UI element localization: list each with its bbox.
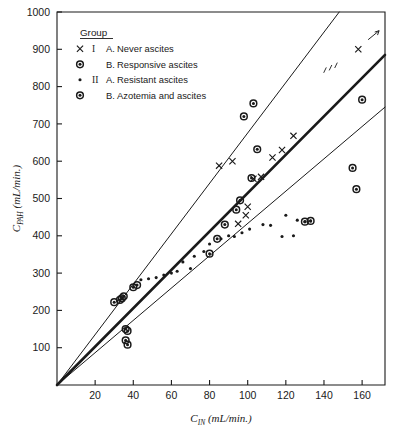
y-tick-label: 100 [32,341,50,353]
legend-item-label: Resistant ascites [117,74,188,85]
arrow-annotation-shaft [368,31,379,40]
legend-item-label: Never ascites [117,43,174,54]
y-tick-label: 800 [32,80,50,92]
small-dot-marker [296,219,299,222]
legend: GroupIA.Never ascitesB.Responsive ascite… [77,27,207,101]
figure-container: 1002003004005006007008009001000204060801… [0,0,404,438]
y-tick-label: 600 [32,155,50,167]
legend-header: Group [80,27,108,38]
circle-dot-center [136,284,139,287]
x-tick-label: 100 [239,389,257,401]
series-group [216,46,361,227]
circle-dot-center [126,329,129,332]
circle-dot-center [256,148,259,151]
small-dot-marker [189,267,192,270]
upper-regression-line [57,12,339,385]
series-group [117,96,366,348]
circle-dot-center [351,166,354,169]
series-group [111,100,261,334]
x-tick-label: 120 [277,389,295,401]
cross-marker [216,163,222,169]
small-dot-marker [162,273,165,276]
y-axis-title: CPAH (mL/min.) [10,164,25,232]
hatch-annotation [324,67,327,72]
y-tick-label: 1000 [27,6,51,18]
plot-annotations [324,31,379,73]
small-dot-marker [261,223,264,226]
circle-dot-center [235,208,238,211]
x-tick-label: 160 [353,389,371,401]
circle-dot-center [355,188,358,191]
cross-marker [229,158,235,164]
lower-regression-line [57,107,385,385]
middle-regression-line [57,55,385,385]
small-dot-marker [176,270,179,273]
cross-marker [355,46,361,52]
legend-item[interactable]: IA.Never ascites [77,43,174,54]
small-dot-marker [139,278,142,281]
small-dot-marker [181,260,184,263]
small-dot-marker [280,235,283,238]
y-tick-label: 900 [32,43,50,55]
circle-dot-center [79,63,82,66]
circle-dot-center [126,343,129,346]
legend-item-label: Responsive ascites [117,59,198,70]
small-dot-marker [147,277,150,280]
legend-item-label: Azotemia and ascites [117,90,206,101]
y-tick-label: 500 [32,192,50,204]
legend-group-roman: II [92,74,98,85]
hatch-annotation [335,63,338,68]
circle-dot-center [208,252,211,255]
small-dot-marker [208,242,211,245]
circle-dot-center [250,176,253,179]
y-tick-label: 700 [32,118,50,130]
legend-item-sub: B. [106,90,115,101]
circle-dot-center [242,115,245,118]
x-tick-label: 140 [315,389,333,401]
legend-item[interactable]: IIA.Resistant ascites [78,74,188,85]
small-dot-marker [78,78,81,81]
cross-marker [269,154,275,160]
y-tick-label: 200 [32,304,50,316]
small-dot-marker [219,237,222,240]
scatter-plot: 1002003004005006007008009001000204060801… [0,0,404,438]
small-dot-marker [233,235,236,238]
cross-marker [243,212,249,218]
circle-dot-center [216,237,219,240]
circle-dot-center [122,295,125,298]
circle-dot-center [79,94,82,97]
cross-marker [235,221,241,227]
small-dot-marker [292,234,295,237]
legend-group-roman: I [92,43,95,54]
small-dot-marker [202,250,205,253]
cross-marker [279,147,285,153]
legend-item[interactable]: B.Azotemia and ascites [77,90,207,101]
cross-marker [77,46,83,52]
legend-item-sub: A. [106,74,115,85]
x-tick-label: 60 [166,389,178,401]
legend-item-sub: B. [106,59,115,70]
small-dot-marker [284,214,287,217]
hatch-annotation [329,65,332,70]
cross-marker [290,133,296,139]
small-dot-marker [248,228,251,231]
circle-dot-center [113,301,116,304]
y-tick-label: 300 [32,267,50,279]
circle-dot-center [361,98,364,101]
small-dot-marker [227,234,230,237]
y-tick-label: 400 [32,229,50,241]
legend-item-sub: A. [106,43,115,54]
small-dot-marker [170,272,173,275]
small-dot-marker [269,224,272,227]
axis-ticks: 1002003004005006007008009001000204060801… [27,6,371,401]
legend-item[interactable]: B.Responsive ascites [77,59,198,70]
x-tick-label: 80 [204,389,216,401]
circle-dot-center [303,220,306,223]
circle-dot-center [223,223,226,226]
x-axis-title: CIN (mL/min.) [190,412,252,427]
circle-dot-center [252,102,255,105]
circle-dot-center [309,219,312,222]
cross-marker [245,204,251,210]
small-dot-marker [193,255,196,258]
x-tick-label: 40 [127,389,139,401]
